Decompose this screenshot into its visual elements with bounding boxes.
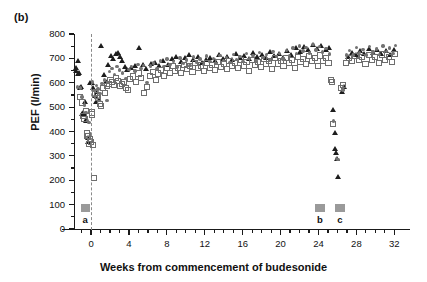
x-tick-minor [384,230,385,233]
figure-panel-b: (b) PEF (l/min) Weeks from commencement … [0,0,427,282]
x-tick-minor [119,230,120,233]
y-tick-label: 800 [31,28,65,39]
data-point [238,55,241,58]
data-point [133,69,136,72]
x-tick [204,230,205,235]
annotation-bar-label-a: a [78,214,92,225]
data-point [152,61,155,64]
data-point [321,50,324,53]
data-point [389,59,395,65]
data-point [208,60,211,63]
data-point [80,95,83,98]
x-tick-minor [157,230,158,233]
y-tick-label: 700 [31,52,65,63]
data-point [291,46,294,49]
data-point [371,50,374,53]
data-point [328,52,331,55]
data-point [149,64,152,67]
data-point [119,58,125,63]
x-tick-minor [337,230,338,233]
x-tick [318,230,319,235]
data-point [361,48,364,51]
x-tick [280,230,281,235]
x-tick-label: 12 [190,238,220,249]
data-point [381,44,384,47]
x-tick-minor [138,230,139,233]
y-tick-label: 100 [31,199,65,210]
data-point [332,130,338,135]
data-point [98,92,101,95]
y-tick-label: 400 [31,126,65,137]
plot-area [74,34,400,229]
data-point [311,43,314,46]
data-point [136,63,139,66]
data-point [295,52,298,55]
data-point [182,62,185,65]
x-tick [356,230,357,235]
data-point [325,60,331,66]
data-point [125,87,131,93]
annotation-bar-label-c: c [333,214,347,225]
data-point [108,70,111,73]
data-point [271,50,274,53]
data-point [155,67,158,70]
x-tick [128,230,129,235]
data-point [101,72,107,77]
annotation-bar-b [315,204,325,212]
data-point [100,82,103,85]
x-tick-label: 8 [152,238,182,249]
data-point [232,53,235,56]
x-tick-minor [81,230,82,233]
x-tick-label: 4 [114,238,144,249]
x-tick-minor [308,230,309,233]
data-point [110,56,116,61]
data-point [124,77,127,80]
x-tick-label: 0 [76,238,106,249]
data-point [198,57,201,60]
data-point [376,60,382,66]
data-point [391,52,394,55]
data-point [153,77,159,83]
x-tick-minor [375,230,376,233]
x-axis-title: Weeks from commencement of budesonide [0,261,427,273]
x-tick-label: 20 [266,238,296,249]
data-point [315,63,321,69]
x-tick [242,230,243,235]
data-point [96,87,99,90]
data-point [388,46,391,49]
data-point [308,51,311,54]
data-point [268,58,271,61]
data-point [285,49,288,52]
data-point [141,90,147,96]
data-point [314,48,317,51]
annotation-bar-c [335,204,345,212]
x-tick-minor [289,230,290,233]
x-tick-minor [176,230,177,233]
x-tick-minor [100,230,101,233]
data-point [318,45,321,48]
data-point [178,56,181,59]
data-point [375,47,378,50]
data-point [110,67,113,70]
x-tick-minor [223,230,224,233]
data-point [98,103,104,109]
data-point [329,79,335,85]
x-tick-minor [299,230,300,233]
annotation-bar-label-b: b [313,214,327,225]
data-point [102,90,108,96]
y-tick-label: 300 [31,150,65,161]
x-tick-label: 16 [228,238,258,249]
x-tick-minor [185,230,186,233]
data-point [246,68,252,74]
panel-label: (b) [14,11,29,23]
data-point [202,63,205,66]
data-point [330,107,336,112]
data-point [301,49,304,52]
x-tick-minor [271,230,272,233]
data-point [332,119,335,122]
data-point [83,103,86,106]
data-point [105,99,108,102]
x-tick-minor [252,230,253,233]
data-point [385,50,388,53]
y-tick-label: 200 [31,174,65,185]
